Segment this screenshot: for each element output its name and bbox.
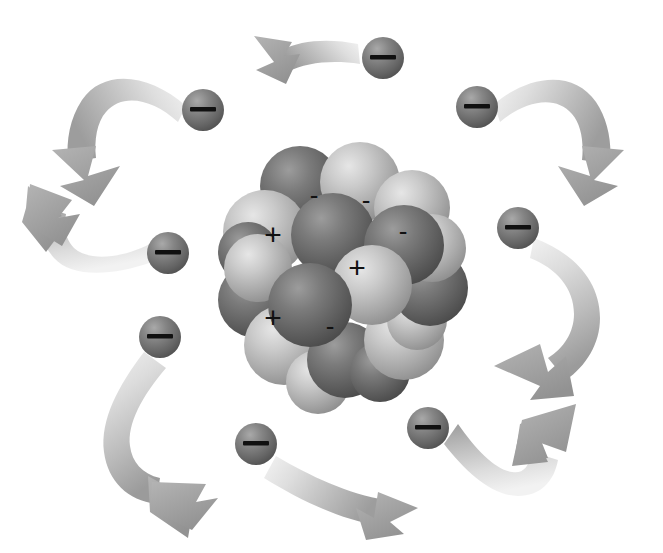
minus-icon xyxy=(464,104,490,108)
electron-right xyxy=(497,207,539,249)
minus-icon xyxy=(155,250,181,254)
neutron-charge-mark: - xyxy=(326,311,335,341)
proton-charge-mark: + xyxy=(348,251,366,284)
atom-diagram-figure: Atom diagram: nucleus of protons and neu… xyxy=(0,0,663,553)
minus-icon xyxy=(415,425,441,429)
proton-charge-mark: + xyxy=(264,218,282,251)
neutron-charge-mark: - xyxy=(362,185,371,215)
electron-lower-left xyxy=(139,316,181,358)
neutron-charge-mark: - xyxy=(310,180,319,210)
proton-charge-mark: + xyxy=(264,301,282,334)
minus-icon xyxy=(243,441,269,445)
electron-bottom-right xyxy=(407,407,449,449)
minus-icon xyxy=(370,55,396,59)
electron-bottom xyxy=(235,423,277,465)
neutron-charge-mark: - xyxy=(399,216,408,246)
minus-icon xyxy=(147,334,173,338)
minus-icon xyxy=(505,225,531,229)
electron-top-left xyxy=(182,89,224,131)
minus-icon xyxy=(190,107,216,111)
electron-top-center xyxy=(362,37,404,79)
electron-top-right xyxy=(456,86,498,128)
electron-left xyxy=(147,232,189,274)
atom-illustration-canvas: + + + - - - - xyxy=(0,0,663,553)
